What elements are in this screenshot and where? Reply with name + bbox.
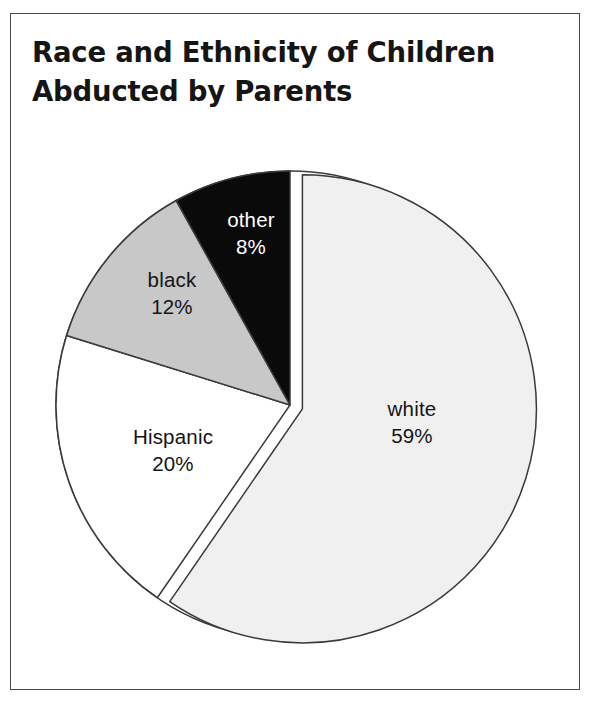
slice-label-value-white: 59% bbox=[391, 424, 433, 447]
pie-svg: white59%Hispanic20%black12%other8% bbox=[0, 0, 598, 704]
slice-label-name-white: white bbox=[387, 397, 437, 420]
slice-label-name-hispanic: Hispanic bbox=[133, 425, 213, 448]
pie-chart-figure: Race and Ethnicity of Children Abducted … bbox=[0, 0, 598, 704]
pie-plot-area: white59%Hispanic20%black12%other8% bbox=[0, 0, 598, 704]
slice-label-name-other: other bbox=[227, 208, 275, 231]
slice-label-value-other: 8% bbox=[236, 235, 266, 258]
slice-label-name-black: black bbox=[148, 268, 197, 291]
slice-label-value-hispanic: 20% bbox=[152, 452, 194, 475]
slice-label-value-black: 12% bbox=[151, 295, 193, 318]
